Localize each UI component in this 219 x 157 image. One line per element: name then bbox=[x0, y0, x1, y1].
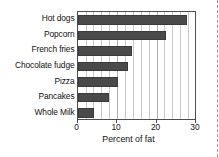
y-axis-tick-label: Pizza bbox=[1, 77, 75, 86]
bar-row bbox=[78, 74, 197, 90]
bar-row bbox=[78, 105, 197, 120]
y-axis-tick-label: Whole Milk bbox=[1, 108, 75, 117]
bar bbox=[78, 108, 94, 118]
bar-row bbox=[78, 28, 197, 44]
x-axis-title: Percent of fat bbox=[0, 134, 219, 144]
x-axis-tick-label: 10 bbox=[111, 122, 120, 132]
x-axis-tick-label: 20 bbox=[151, 122, 160, 132]
y-axis-tick-label: French fries bbox=[1, 45, 75, 54]
plot-area bbox=[77, 11, 197, 120]
bar-row bbox=[78, 12, 197, 28]
page-edge-divider bbox=[217, 0, 218, 157]
x-axis-tick-label: 30 bbox=[190, 122, 199, 132]
bar bbox=[78, 77, 118, 87]
bar-chart-figure: Hot dogsPopcornFrench friesChocolate fud… bbox=[0, 0, 219, 157]
x-axis-tickmark bbox=[116, 120, 117, 123]
x-axis-tickmark bbox=[195, 120, 196, 123]
bar bbox=[78, 93, 109, 103]
y-axis-tick-label: Pancakes bbox=[1, 92, 75, 101]
bar-row bbox=[78, 90, 197, 106]
y-axis-tick-label: Popcorn bbox=[1, 30, 75, 39]
bar bbox=[78, 31, 167, 41]
y-axis-tick-label: Hot dogs bbox=[1, 14, 75, 23]
x-axis-tick-label: 0 bbox=[74, 122, 79, 132]
bar bbox=[78, 15, 187, 25]
bar-row bbox=[78, 43, 197, 59]
y-axis-tick-label: Chocolate fudge bbox=[1, 61, 75, 70]
bar bbox=[78, 62, 128, 72]
x-axis-tickmark bbox=[77, 120, 78, 123]
bar-row bbox=[78, 59, 197, 75]
bar bbox=[78, 46, 132, 56]
x-axis-tickmark bbox=[156, 120, 157, 123]
